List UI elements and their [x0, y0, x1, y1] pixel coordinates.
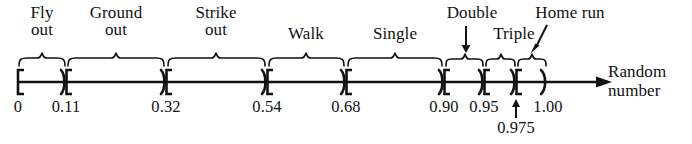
brace-strike-out [168, 53, 265, 66]
brace-ground-out [68, 53, 164, 66]
number-line-graphics [0, 0, 692, 144]
brace-home-run [518, 54, 546, 66]
pointer-0-975 [512, 99, 520, 118]
pointer-home-run [531, 25, 548, 54]
brace-double [446, 54, 483, 66]
brace-single [348, 53, 442, 66]
brace-walk [269, 53, 344, 66]
brace-triple [486, 54, 515, 66]
pointer-double [462, 26, 471, 53]
brace-fly-out [19, 53, 65, 66]
number-line-figure: Flyout Groundout Strikeout Walk Single D… [0, 0, 692, 144]
axis-line [18, 77, 612, 88]
